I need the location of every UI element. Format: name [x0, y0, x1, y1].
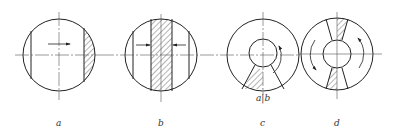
panel-b: b: [100, 10, 200, 128]
panel-d: d: [298, 12, 382, 128]
panel-c: a|b c: [200, 12, 300, 128]
panel-label-b: b: [158, 118, 164, 128]
diagram-canvas: a b a|b c: [0, 0, 397, 129]
panel-annotation-c: a|b: [256, 93, 270, 104]
panel-a: a: [15, 10, 104, 128]
panel-label-d: d: [334, 118, 340, 128]
panel-label-a: a: [56, 118, 61, 128]
panel-label-c: c: [260, 118, 265, 128]
